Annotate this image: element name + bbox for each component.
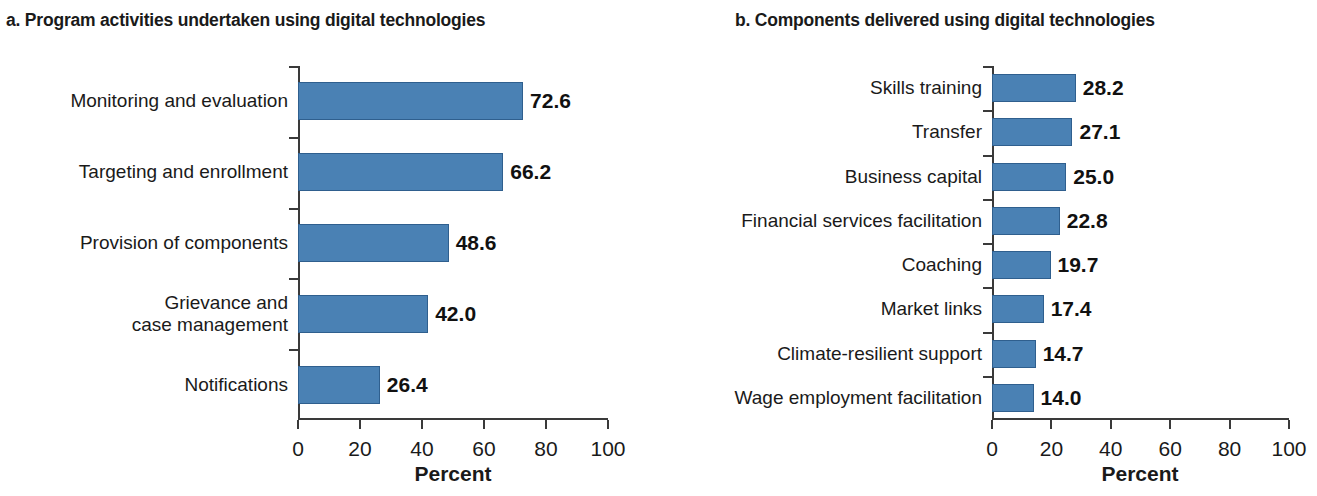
x-axis-tick-label: 20 bbox=[348, 437, 371, 461]
panel-a-x-axis-title: Percent bbox=[414, 462, 491, 486]
bar bbox=[992, 340, 1036, 368]
bar-row: 48.6 bbox=[298, 224, 608, 262]
bar-value-label: 28.2 bbox=[1083, 76, 1124, 100]
bar-row: 28.2 bbox=[992, 74, 1289, 102]
x-axis-tick bbox=[1110, 420, 1112, 429]
x-axis-tick bbox=[1050, 420, 1052, 429]
x-axis-tick bbox=[421, 420, 423, 429]
x-axis-tick-label: 0 bbox=[986, 437, 998, 461]
bar bbox=[992, 295, 1044, 323]
panel-b: b. Components delivered using digital te… bbox=[660, 0, 1317, 496]
x-axis-tick-label: 40 bbox=[1099, 437, 1122, 461]
bar bbox=[992, 251, 1051, 279]
bar bbox=[992, 74, 1076, 102]
bar bbox=[298, 82, 523, 120]
bar-row: 22.8 bbox=[992, 207, 1289, 235]
x-axis-tick-label: 80 bbox=[534, 437, 557, 461]
bar-row: 66.2 bbox=[298, 153, 608, 191]
bar bbox=[298, 366, 380, 404]
bar-value-label: 22.8 bbox=[1067, 209, 1108, 233]
category-label: Provision of components bbox=[0, 208, 300, 279]
bar-value-label: 25.0 bbox=[1073, 165, 1114, 189]
bar-row: 26.4 bbox=[298, 366, 608, 404]
bar bbox=[992, 118, 1072, 146]
bar-value-label: 42.0 bbox=[435, 302, 476, 326]
bar-value-label: 14.7 bbox=[1043, 342, 1084, 366]
x-axis-tick-label: 60 bbox=[1159, 437, 1182, 461]
bar bbox=[298, 153, 503, 191]
bar bbox=[992, 163, 1066, 191]
bar-row: 17.4 bbox=[992, 295, 1289, 323]
bar-row: 19.7 bbox=[992, 251, 1289, 279]
bar bbox=[992, 207, 1060, 235]
x-axis-tick-label: 0 bbox=[292, 437, 304, 461]
category-label: Targeting and enrollment bbox=[0, 137, 300, 208]
x-axis-tick-label: 100 bbox=[590, 437, 625, 461]
category-label: Grievance and case management bbox=[0, 278, 300, 349]
category-label: Monitoring and evaluation bbox=[0, 66, 300, 137]
x-axis-tick-label: 20 bbox=[1040, 437, 1063, 461]
bar bbox=[298, 295, 428, 333]
x-axis-tick bbox=[1169, 420, 1171, 429]
x-axis-tick-label: 40 bbox=[410, 437, 433, 461]
bar-row: 25.0 bbox=[992, 163, 1289, 191]
category-label: Skills training bbox=[660, 66, 994, 110]
bar-value-label: 27.1 bbox=[1079, 120, 1120, 144]
x-axis-tick bbox=[1229, 420, 1231, 429]
panel-b-plot-area: 28.227.125.022.819.717.414.714.0 0204060… bbox=[992, 66, 1289, 420]
panel-b-title: b. Components delivered using digital te… bbox=[735, 10, 1155, 31]
x-axis-tick-label: 100 bbox=[1271, 437, 1306, 461]
x-axis-tick bbox=[297, 420, 299, 429]
category-label: Business capital bbox=[660, 155, 994, 199]
category-label: Notifications bbox=[0, 349, 300, 420]
panel-a: a. Program activities undertaken using d… bbox=[0, 0, 660, 496]
bar bbox=[992, 384, 1034, 412]
x-axis-tick bbox=[359, 420, 361, 429]
x-axis-tick-label: 80 bbox=[1218, 437, 1241, 461]
x-axis-tick-label: 60 bbox=[472, 437, 495, 461]
bar-value-label: 17.4 bbox=[1051, 297, 1092, 321]
panel-a-title: a. Program activities undertaken using d… bbox=[6, 10, 485, 31]
category-label: Wage employment facilitation bbox=[660, 376, 994, 420]
bar bbox=[298, 224, 449, 262]
category-label: Coaching bbox=[660, 243, 994, 287]
category-label: Financial services facilitation bbox=[660, 199, 994, 243]
bar-row: 42.0 bbox=[298, 295, 608, 333]
x-axis-tick bbox=[991, 420, 993, 429]
bar-value-label: 19.7 bbox=[1058, 253, 1099, 277]
panel-b-bars: 28.227.125.022.819.717.414.714.0 bbox=[992, 66, 1289, 420]
bar-row: 72.6 bbox=[298, 82, 608, 120]
category-label: Market links bbox=[660, 287, 994, 331]
bar-value-label: 14.0 bbox=[1041, 386, 1082, 410]
x-axis-tick bbox=[483, 420, 485, 429]
category-label: Transfer bbox=[660, 110, 994, 154]
bar-value-label: 66.2 bbox=[510, 160, 551, 184]
bar-value-label: 26.4 bbox=[387, 373, 428, 397]
bar-row: 14.0 bbox=[992, 384, 1289, 412]
x-axis-tick bbox=[607, 420, 609, 429]
figure-two-panel-bar-charts: a. Program activities undertaken using d… bbox=[0, 0, 1317, 496]
bar-row: 14.7 bbox=[992, 340, 1289, 368]
x-axis-tick bbox=[1288, 420, 1290, 429]
bar-value-label: 72.6 bbox=[530, 89, 571, 113]
panel-a-bars: 72.666.248.642.026.4 bbox=[298, 66, 608, 420]
panel-b-x-axis-title: Percent bbox=[1101, 462, 1178, 486]
category-label: Climate-resilient support bbox=[660, 332, 994, 376]
bar-value-label: 48.6 bbox=[456, 231, 497, 255]
panel-a-plot-area: 72.666.248.642.026.4 020406080100 bbox=[298, 66, 608, 420]
bar-row: 27.1 bbox=[992, 118, 1289, 146]
x-axis-tick bbox=[545, 420, 547, 429]
